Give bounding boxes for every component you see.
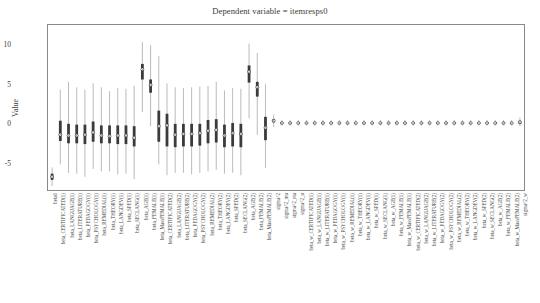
boxplot-median-dot xyxy=(339,123,340,124)
x-axis-tick-label: beta_w_MassFEMALE(1) xyxy=(407,193,412,246)
boxplot-item xyxy=(83,90,86,177)
boxplot-item xyxy=(207,86,210,172)
boxplot-iqr-box xyxy=(59,121,62,141)
boxplot-median-dot xyxy=(405,123,406,124)
boxplot-median-dot xyxy=(232,133,233,134)
boxplot-median-dot xyxy=(208,130,209,131)
x-axis-tick-label: beta_FEMALE(1) xyxy=(152,193,157,230)
x-axis-tick-label: beta_w_LANGDEV(1) xyxy=(366,193,371,240)
x-axis-tick-label: beta_w_PSYCHOLOGY(2) xyxy=(449,193,454,249)
x-axis-tick-label: beta_MassFEMALE(2) xyxy=(267,193,272,240)
boxplot-median-dot xyxy=(126,135,127,136)
boxplot-item xyxy=(518,118,521,127)
boxplot-item xyxy=(108,91,111,171)
boxplot-item xyxy=(445,120,448,125)
boxplot-item xyxy=(149,45,152,126)
x-axis-tick-label: beta_w_REMEDIAL(2) xyxy=(457,193,462,242)
boxplot-item xyxy=(362,120,365,125)
x-axis-tick-label: beta_w_PEDAGOGY(2) xyxy=(440,193,445,243)
boxplot-median-dot xyxy=(380,123,381,124)
plot-area xyxy=(47,24,525,191)
boxplot-median-dot xyxy=(249,71,250,72)
boxplot-median-dot xyxy=(355,123,356,124)
boxplot-median-dot xyxy=(68,135,69,136)
x-axis-tick-label: beta_w_FEMALE(2) xyxy=(506,193,511,236)
boxplot-item xyxy=(420,120,423,125)
boxplot-median-dot xyxy=(175,134,176,135)
boxplot-item xyxy=(116,88,119,174)
x-axis-tick-label: beta_FEMALE(2) xyxy=(259,193,264,230)
chart-title: Dependent variable = itemresps0 xyxy=(0,6,540,16)
x-axis-tick-label: beta_AGE(1) xyxy=(144,193,149,220)
boxplot-item xyxy=(494,120,497,125)
boxplot-item xyxy=(412,120,415,125)
boxplot-median-dot xyxy=(446,123,447,124)
boxplot-item xyxy=(223,90,226,173)
boxplot-item xyxy=(166,83,169,175)
x-axis-tick-label: beta_LANGUAGE(2) xyxy=(177,193,182,237)
x-axis-tick-label: beta_CERTIFICATED(2) xyxy=(168,193,173,244)
boxplot-item xyxy=(371,120,374,125)
boxplot-median-dot xyxy=(150,84,151,85)
boxplot-item xyxy=(174,87,177,173)
boxplot-item xyxy=(354,120,357,125)
boxplot-item xyxy=(461,120,464,125)
boxplot-median-dot xyxy=(257,87,258,88)
x-axis-tick-label: beta_PSYCHOLOGY(1) xyxy=(94,193,99,243)
boxplot-iqr-box xyxy=(248,65,251,82)
boxplot-item xyxy=(387,120,390,125)
x-axis-tick-label: beta_PEDAGOGY(2) xyxy=(193,193,198,237)
boxplot-median-dot xyxy=(347,123,348,124)
boxplot-median-dot xyxy=(487,123,488,124)
x-axis-tick-label: beta_SECLANG(2) xyxy=(243,193,248,233)
boxplot-median-dot xyxy=(298,123,299,124)
boxplot-iqr-box xyxy=(108,125,111,143)
x-axis-tick-label: beta_THEORY(1) xyxy=(111,193,116,230)
boxplot-item xyxy=(215,82,218,170)
boxplot-item xyxy=(477,120,480,125)
boxplot-median-dot xyxy=(331,123,332,124)
x-axis-tick-label: beta_w_SECLANG(2) xyxy=(490,193,495,239)
boxplot-item xyxy=(428,120,431,125)
boxplot-item xyxy=(280,120,283,125)
boxplot-item xyxy=(313,120,316,125)
x-axis-tick-label: beta_w_MassFEMALE(2) xyxy=(515,193,520,246)
boxplot-median-dot xyxy=(429,123,430,124)
boxplot-median-dot xyxy=(281,123,282,124)
boxplot-iqr-box xyxy=(256,82,259,97)
x-axis-tick-label: beta0 xyxy=(53,193,58,204)
x-axis-tick-label: beta_w_LANGUAGE(2) xyxy=(424,193,429,244)
x-axis-tick-label: beta_w_PEDAGOGY(1) xyxy=(333,193,338,243)
x-axis-tick-label: beta_THEORY(2) xyxy=(218,193,223,230)
boxplot-median-dot xyxy=(314,123,315,124)
y-axis-tick-label: 0 xyxy=(0,119,11,128)
x-axis-tick-label: beta_MassFEMALE(1) xyxy=(160,193,165,240)
boxplot-median-dot xyxy=(478,123,479,124)
x-axis-tick-labels: beta0beta_CERTIFICATED(1)beta_LANGUAGE(1… xyxy=(47,193,525,301)
y-axis-tick-label: 10 xyxy=(0,40,11,49)
boxplot-median-dot xyxy=(142,69,143,70)
x-axis-tick-label: beta_PEDAGOGY(1) xyxy=(86,193,91,237)
x-axis-tick-label: beta_w_THEORY(2) xyxy=(465,193,470,236)
x-axis-tick-label: beta_LANGDEV(2) xyxy=(226,193,231,234)
boxplot-item xyxy=(469,120,472,125)
boxplot-median-dot xyxy=(167,125,168,126)
boxplot-item xyxy=(51,167,54,186)
boxplot-median-dot xyxy=(101,135,102,136)
boxplot-median-dot xyxy=(322,123,323,124)
boxplot-median-dot xyxy=(117,135,118,136)
boxplot-median-dot xyxy=(183,134,184,135)
y-axis-label-text: Value xyxy=(11,98,20,116)
boxplot-median-dot xyxy=(495,123,496,124)
x-axis-tick-label: sigma^2_u xyxy=(300,193,305,215)
boxplot-item xyxy=(157,56,160,164)
x-axis-tick-label: beta_CERTIFICATED(1) xyxy=(61,193,66,244)
x-axis-tick-label: beta_LANGDEV(1) xyxy=(119,193,124,234)
boxplot-item xyxy=(67,82,70,173)
boxplot-median-dot xyxy=(413,123,414,124)
boxplot-item xyxy=(141,42,144,112)
boxplot-median-dot xyxy=(240,134,241,135)
x-axis-tick-label: beta_w_CERTIFICATED(1) xyxy=(309,193,314,250)
x-axis-tick-label: beta_REMEDIAL(1) xyxy=(102,193,107,236)
boxplot-item xyxy=(436,120,439,125)
